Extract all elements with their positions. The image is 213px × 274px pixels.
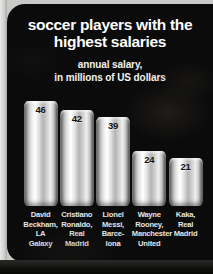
category-label-line: Madrid bbox=[168, 229, 203, 239]
poster-left-edge bbox=[0, 0, 7, 274]
category-label-line: Messi, bbox=[96, 220, 131, 230]
category-label-line: Beckham, bbox=[23, 220, 58, 230]
category-axis-labels: David Beckham, LA Galaxy Cristiano Ronal… bbox=[23, 210, 203, 248]
poster-bottom-shadow bbox=[0, 260, 213, 274]
bar-value-label: 42 bbox=[72, 113, 82, 124]
infographic-poster: soccer players with the highest salaries… bbox=[0, 0, 213, 274]
page-title: soccer players with the highest salaries bbox=[17, 17, 203, 50]
category-label-line: Galaxy bbox=[23, 239, 58, 249]
poster-header: soccer players with the highest salaries… bbox=[7, 4, 213, 84]
category-label: Cristiano Ronaldo, Real Madrid bbox=[59, 210, 94, 248]
category-label: Lionel Messi, Barce- lona bbox=[96, 210, 131, 248]
category-label: Kaka, Real Madrid bbox=[168, 210, 203, 248]
bar: 21 bbox=[169, 158, 203, 206]
bar-slot: 39 bbox=[96, 92, 131, 206]
title-line-1: soccer players with the bbox=[17, 17, 203, 34]
bar-chart: 46 42 39 24 bbox=[7, 92, 213, 262]
category-label-line: Rooney, bbox=[132, 220, 167, 230]
category-label-line: Lionel bbox=[96, 210, 131, 220]
poster-subtitle: annual salary, in millions of US dollars bbox=[17, 59, 203, 84]
category-label-line: David bbox=[23, 210, 58, 220]
category-label: Wayne Rooney, Manchester United bbox=[132, 210, 167, 248]
category-label: David Beckham, LA Galaxy bbox=[23, 210, 58, 248]
category-label-line: Madrid bbox=[59, 239, 94, 249]
bar-slot: 21 bbox=[168, 92, 203, 206]
bar: 39 bbox=[96, 117, 130, 206]
category-label-line: Wayne bbox=[132, 210, 167, 220]
category-label-line: Cristiano bbox=[59, 210, 94, 220]
category-label-line: United bbox=[132, 239, 167, 249]
bar-slot: 42 bbox=[59, 92, 94, 206]
subtitle-line-1: annual salary, bbox=[17, 59, 203, 72]
bar-slot: 46 bbox=[23, 92, 58, 206]
category-label-line: lona bbox=[96, 239, 131, 249]
category-label-line: Real bbox=[168, 220, 203, 230]
bar-slot: 24 bbox=[132, 92, 167, 206]
category-label-line: Ronaldo, bbox=[59, 220, 94, 230]
poster-card: soccer players with the highest salaries… bbox=[7, 4, 213, 262]
category-label-line: Kaka, bbox=[168, 210, 203, 220]
title-line-2: highest salaries bbox=[17, 34, 203, 51]
bar-value-label: 21 bbox=[180, 161, 190, 172]
subtitle-line-2: in millions of US dollars bbox=[17, 72, 203, 85]
category-label-line: Manchester bbox=[132, 229, 167, 239]
bar: 46 bbox=[24, 101, 58, 206]
bar-value-label: 39 bbox=[108, 120, 118, 131]
chart-plot-area: 46 42 39 24 bbox=[23, 92, 203, 206]
category-label-line: LA bbox=[23, 229, 58, 239]
category-label-line: Barce- bbox=[96, 229, 131, 239]
bar: 42 bbox=[60, 110, 94, 206]
bar-value-label: 24 bbox=[144, 154, 154, 165]
bar: 24 bbox=[132, 151, 166, 206]
category-label-line: Real bbox=[59, 229, 94, 239]
bar-value-label: 46 bbox=[35, 104, 45, 115]
